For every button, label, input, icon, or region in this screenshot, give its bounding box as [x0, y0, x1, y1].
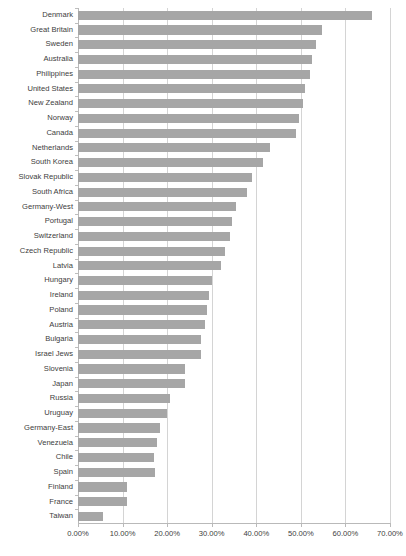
x-axis-tick-40.00% [256, 524, 257, 527]
y-axis-tick [75, 155, 78, 156]
y-axis-tick [75, 141, 78, 142]
x-axis-tick-70.00% [390, 524, 391, 527]
y-axis-tick [75, 23, 78, 24]
bar-finland [78, 482, 127, 491]
bar-chile [78, 453, 154, 462]
bar-denmark [78, 11, 372, 20]
bar-row [78, 170, 390, 185]
y-axis-tick [75, 96, 78, 97]
y-axis-tick [75, 465, 78, 466]
y-axis-tick [75, 362, 78, 363]
bar-philippines [78, 70, 310, 79]
bar-row [78, 37, 390, 52]
bar-row [78, 391, 390, 406]
y-axis-label-chile: Chile [0, 450, 73, 465]
y-axis-label-canada: Canada [0, 126, 73, 141]
y-axis-tick [75, 111, 78, 112]
bar-rows [78, 8, 390, 524]
bar-row [78, 111, 390, 126]
bar-row [78, 185, 390, 200]
bar-south-africa [78, 188, 247, 197]
bar-row [78, 450, 390, 465]
y-axis-label-germany-east: Germany-East [0, 421, 73, 436]
y-axis-label-poland: Poland [0, 303, 73, 318]
bar-slovenia [78, 364, 185, 373]
bar-south-korea [78, 158, 263, 167]
bar-germany-west [78, 202, 236, 211]
y-axis-tick [75, 37, 78, 38]
bar-great-britain [78, 25, 322, 34]
y-axis-tick [75, 259, 78, 260]
y-axis-tick [75, 406, 78, 407]
bar-row [78, 465, 390, 480]
bar-row [78, 244, 390, 259]
y-axis-label-ireland: Ireland [0, 288, 73, 303]
x-axis-tick-0.00% [78, 524, 79, 527]
bar-hungary [78, 276, 212, 285]
bar-row [78, 82, 390, 97]
y-axis-tick [75, 450, 78, 451]
y-axis-label-australia: Australia [0, 52, 73, 67]
y-axis-label-united-states: United States [0, 82, 73, 97]
y-axis-label-south-korea: South Korea [0, 155, 73, 170]
bar-row [78, 377, 390, 392]
bar-switzerland [78, 232, 230, 241]
bar-austria [78, 320, 205, 329]
y-axis-label-portugal: Portugal [0, 214, 73, 229]
y-axis-label-bulgaria: Bulgaria [0, 332, 73, 347]
y-axis-tick [75, 52, 78, 53]
bar-bulgaria [78, 335, 201, 344]
bar-row [78, 259, 390, 274]
x-axis-tick-20.00% [167, 524, 168, 527]
y-axis-label-switzerland: Switzerland [0, 229, 73, 244]
y-axis-label-uruguay: Uruguay [0, 406, 73, 421]
y-axis-label-denmark: Denmark [0, 8, 73, 23]
y-axis-label-czech-republic: Czech Republic [0, 244, 73, 259]
x-axis-tick-50.00% [301, 524, 302, 527]
bar-row [78, 67, 390, 82]
y-axis-tick [75, 509, 78, 510]
bar-row [78, 273, 390, 288]
bar-ireland [78, 291, 209, 300]
bar-slovak-republic [78, 173, 252, 182]
y-axis-tick [75, 244, 78, 245]
bar-row [78, 436, 390, 451]
y-axis-label-slovak-republic: Slovak Republic [0, 170, 73, 185]
bar-taiwan [78, 512, 103, 521]
y-axis-tick [75, 303, 78, 304]
y-axis-tick [75, 214, 78, 215]
y-axis-tick [75, 229, 78, 230]
y-axis-label-taiwan: Taiwan [0, 509, 73, 524]
y-axis-label-latvia: Latvia [0, 259, 73, 274]
bar-canada [78, 129, 296, 138]
bar-row [78, 318, 390, 333]
bar-germany-east [78, 423, 160, 432]
y-axis-tick [75, 332, 78, 333]
bar-venezuela [78, 438, 157, 447]
y-axis-category-labels: DenmarkGreat BritainSwedenAustraliaPhili… [0, 8, 73, 524]
bar-chart: DenmarkGreat BritainSwedenAustraliaPhili… [0, 0, 406, 556]
x-axis-tick-10.00% [123, 524, 124, 527]
y-axis-label-finland: Finland [0, 480, 73, 495]
y-axis-label-norway: Norway [0, 111, 73, 126]
y-axis-tick [75, 318, 78, 319]
bar-row [78, 23, 390, 38]
bar-row [78, 229, 390, 244]
bar-row [78, 421, 390, 436]
bar-row [78, 52, 390, 67]
bar-row [78, 155, 390, 170]
bar-row [78, 509, 390, 524]
y-axis-tick [75, 126, 78, 127]
bar-uruguay [78, 409, 167, 418]
y-axis-tick [75, 377, 78, 378]
y-axis-tick [75, 480, 78, 481]
y-axis-label-israel-jews: Israel Jews [0, 347, 73, 362]
plot-area [78, 8, 390, 524]
bar-row [78, 288, 390, 303]
y-axis-label-germany-west: Germany-West [0, 200, 73, 215]
y-axis-label-spain: Spain [0, 465, 73, 480]
y-axis-label-austria: Austria [0, 318, 73, 333]
bar-row [78, 362, 390, 377]
bar-united-states [78, 84, 305, 93]
bar-row [78, 200, 390, 215]
